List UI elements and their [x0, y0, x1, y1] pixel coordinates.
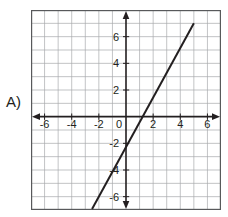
- graph-svg: -6 -4 -2 0 2 4 6 6 4 2 -2 -4 -6: [31, 10, 221, 210]
- x-tick-label: 2: [150, 118, 156, 130]
- x-tick-label: -4: [67, 118, 77, 130]
- choice-label: A): [6, 93, 21, 111]
- y-tick-label: 4: [113, 57, 119, 69]
- graph-question-panel: A): [0, 0, 228, 217]
- coordinate-graph: -6 -4 -2 0 2 4 6 6 4 2 -2 -4 -6: [31, 10, 221, 210]
- x-tick-label: -6: [40, 118, 50, 130]
- y-tick-label: 2: [113, 84, 119, 96]
- x-tick-label: 4: [177, 118, 183, 130]
- x-tick-label: 6: [204, 118, 210, 130]
- x-tick-label-origin: 0: [116, 118, 122, 130]
- y-tick-label: -2: [109, 137, 119, 149]
- y-tick-label: -6: [109, 191, 119, 203]
- x-tick-label: -2: [94, 118, 104, 130]
- y-tick-label: 6: [113, 31, 119, 43]
